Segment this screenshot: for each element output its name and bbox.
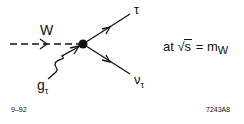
tau-line	[83, 14, 130, 44]
eq-prefix: at	[163, 39, 177, 54]
sqrt-argument: s	[184, 39, 193, 53]
arrow-incoming-icon	[70, 46, 79, 54]
nu-tau-label: ντ	[134, 73, 144, 86]
eq-equals: = m	[192, 39, 218, 54]
nu-symbol: ν	[134, 72, 141, 87]
g-tau-label: gτ	[37, 78, 48, 92]
nu-tau-line	[83, 44, 130, 74]
vertex-dot	[79, 40, 88, 49]
tau-label: τ	[134, 3, 139, 16]
eq-subscript: W	[218, 44, 228, 56]
coupling-wavy-line	[48, 46, 80, 79]
g-subscript: τ	[45, 86, 49, 96]
g-symbol: g	[37, 77, 45, 93]
figure-date: 9–92	[11, 106, 27, 113]
nu-subscript: τ	[141, 80, 145, 90]
figure-id: 7243A8	[206, 106, 230, 113]
w-label: W	[40, 23, 53, 37]
energy-condition-equation: at √s = mW	[163, 39, 228, 53]
